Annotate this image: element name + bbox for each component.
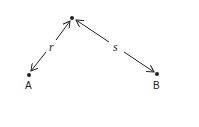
node-top xyxy=(70,16,74,20)
node-a xyxy=(27,73,31,77)
edge-label-r: r xyxy=(49,40,54,54)
edge-label-s: s xyxy=(113,40,118,54)
node-label-a: A xyxy=(25,80,32,91)
diagram-canvas: r s A B xyxy=(0,0,199,127)
node-b xyxy=(155,72,159,76)
node-label-b: B xyxy=(153,80,160,91)
diagram-svg: r s A B xyxy=(0,0,199,127)
